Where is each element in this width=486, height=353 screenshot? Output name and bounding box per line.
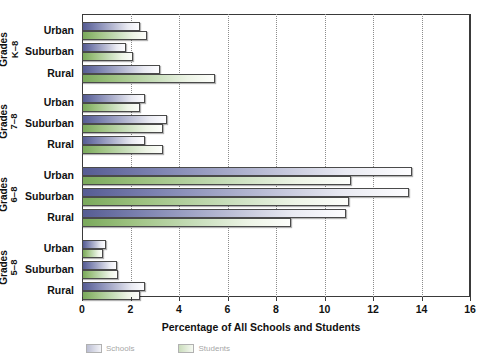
bar-schools xyxy=(82,115,167,124)
bar-schools xyxy=(82,167,412,176)
category-label-suburban: Suburban xyxy=(25,117,74,129)
bar-schools xyxy=(82,65,160,74)
x-tick-label: 6 xyxy=(225,303,231,315)
x-tick-label: 10 xyxy=(319,303,331,315)
x-tick-mark xyxy=(470,297,471,301)
group-label-range: K–8 xyxy=(9,41,20,58)
group-label-grades: Grades xyxy=(0,250,9,284)
bars-layer xyxy=(82,14,470,297)
bar-schools xyxy=(82,136,145,145)
category-label-rural: Rural xyxy=(47,211,74,223)
category-label-rural: Rural xyxy=(47,138,74,150)
legend-label: Students xyxy=(198,344,230,353)
bar-students xyxy=(82,197,349,206)
x-tick-label: 4 xyxy=(176,303,182,315)
bar-schools xyxy=(82,209,346,218)
bar-students xyxy=(82,124,163,133)
legend-item: Schools xyxy=(86,344,134,353)
category-label-urban: Urban xyxy=(44,242,74,254)
legend: SchoolsStudents xyxy=(86,344,230,353)
group-label-grades: Grades xyxy=(0,104,9,138)
bar-students xyxy=(82,52,133,61)
x-tick-label: 14 xyxy=(416,303,428,315)
legend-swatch xyxy=(86,344,102,353)
bar-students xyxy=(82,218,291,227)
x-tick-mark xyxy=(179,297,180,301)
bar-students xyxy=(82,74,215,83)
bar-schools xyxy=(82,43,126,52)
bar-schools xyxy=(82,282,145,291)
x-tick-mark xyxy=(131,297,132,301)
x-tick-mark xyxy=(228,297,229,301)
bar-schools xyxy=(82,261,117,270)
group-label-range: 5–8 xyxy=(8,260,19,276)
x-tick-label: 2 xyxy=(128,303,134,315)
legend-swatch xyxy=(178,344,194,353)
x-tick-label: 16 xyxy=(464,303,476,315)
legend-label: Schools xyxy=(106,344,134,353)
category-label-urban: Urban xyxy=(44,96,74,108)
x-axis-title: Percentage of All Schools and Students xyxy=(0,321,486,333)
category-label-urban: Urban xyxy=(44,24,74,36)
x-tick-mark xyxy=(82,297,83,301)
bar-students xyxy=(82,145,163,154)
bar-students xyxy=(82,270,118,279)
bar-schools xyxy=(82,240,106,249)
category-label-suburban: Suburban xyxy=(25,45,74,57)
category-label-urban: Urban xyxy=(44,169,74,181)
x-tick-mark xyxy=(422,297,423,301)
legend-item: Students xyxy=(178,344,230,353)
bar-students xyxy=(82,249,103,258)
category-label-suburban: Suburban xyxy=(25,263,74,275)
gridline xyxy=(470,14,471,297)
bar-students xyxy=(82,31,147,40)
group-label-range: 6–8 xyxy=(8,187,19,203)
bar-schools xyxy=(82,94,145,103)
bar-schools xyxy=(82,188,409,197)
bar-students xyxy=(82,103,140,112)
category-label-rural: Rural xyxy=(47,67,74,79)
x-tick-mark xyxy=(276,297,277,301)
x-tick-label: 12 xyxy=(367,303,379,315)
bar-students xyxy=(82,176,351,185)
x-tick-label: 0 xyxy=(79,303,85,315)
group-label-grades: Grades xyxy=(0,177,9,211)
group-label-range: 7–8 xyxy=(8,114,19,130)
category-label-suburban: Suburban xyxy=(25,190,74,202)
x-tick-mark xyxy=(373,297,374,301)
x-tick-mark xyxy=(325,297,326,301)
category-label-rural: Rural xyxy=(47,284,74,296)
bar-schools xyxy=(82,22,140,31)
x-tick-label: 8 xyxy=(273,303,279,315)
x-axis-title-text: Percentage of All Schools and Students xyxy=(162,321,361,333)
group-label-grades: Grades xyxy=(0,32,9,66)
